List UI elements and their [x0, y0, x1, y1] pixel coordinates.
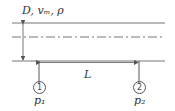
station-1-marker: 1 [33, 81, 46, 94]
pipe-properties-label: D, vₘ, ρ [22, 4, 64, 17]
station-2-pressure: p₂ [134, 94, 145, 107]
station-1-pressure: p₁ [34, 94, 45, 107]
length-label: L [84, 68, 91, 81]
station-2-marker: 2 [133, 81, 146, 94]
